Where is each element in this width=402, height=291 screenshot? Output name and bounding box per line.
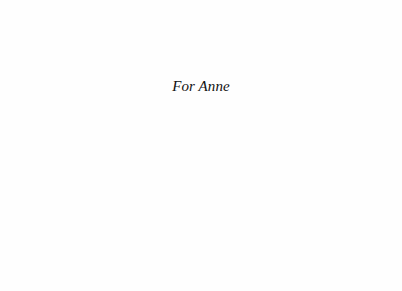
book-page: For Anne (0, 0, 402, 291)
dedication-text: For Anne (0, 78, 402, 95)
